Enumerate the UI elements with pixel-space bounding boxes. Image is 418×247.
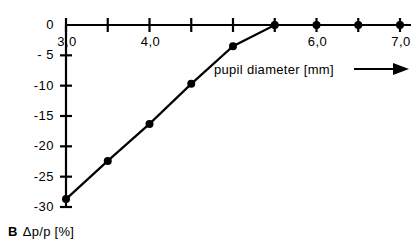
x-axis-arrow-icon [354, 63, 409, 75]
y-axis-title: BΔp/p [%] [8, 224, 74, 239]
y-axis-title-text: Δp/p [%] [23, 224, 75, 239]
x-tick-label: 7,0 [385, 34, 417, 49]
y-tick-label: -25 [8, 169, 54, 184]
y-tick-label: -15 [8, 108, 54, 123]
y-tick-label: 0 [8, 17, 54, 32]
data-point [354, 21, 362, 29]
data-point [396, 21, 404, 29]
y-tick-label: - 5 [8, 47, 54, 62]
data-series-line [66, 25, 400, 199]
data-point [271, 21, 279, 29]
data-point [62, 195, 70, 203]
y-tick-label: -10 [8, 78, 54, 93]
x-axis-title: pupil diameter [mm] [214, 62, 334, 77]
x-tick-label: 4,0 [135, 34, 167, 49]
x-tick-label: 3,0 [51, 34, 83, 49]
y-tick-label: -20 [8, 138, 54, 153]
chart-figure: 3,04,06,07,0 0- 5-10-15-20-25-30 pupil d… [0, 0, 418, 247]
x-tick-label: 6,0 [302, 34, 334, 49]
data-series-markers [62, 21, 404, 203]
data-point [146, 120, 154, 128]
data-point [313, 21, 321, 29]
data-point [187, 80, 195, 88]
data-point [104, 157, 112, 165]
data-point [229, 42, 237, 50]
y-tick-label: -30 [8, 199, 54, 214]
panel-letter: B [8, 224, 18, 239]
